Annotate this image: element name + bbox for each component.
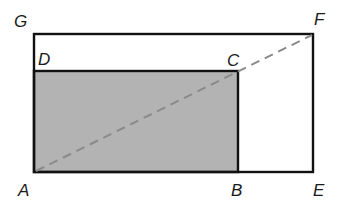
label-f: F <box>314 10 326 29</box>
geometry-diagram: G F D C A B E <box>0 0 346 210</box>
label-c: C <box>227 51 240 70</box>
label-d: D <box>38 50 50 69</box>
label-e: E <box>313 181 325 200</box>
label-g: G <box>14 12 27 31</box>
label-a: A <box>17 181 29 200</box>
label-b: B <box>231 181 242 200</box>
